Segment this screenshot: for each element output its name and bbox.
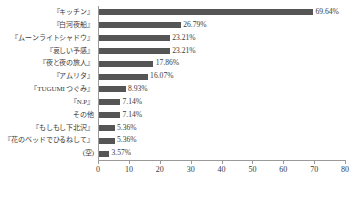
bar-value-label: 8.93% (126, 83, 148, 96)
bar-value-label: 7.14% (120, 109, 142, 122)
bar (98, 125, 115, 131)
bar-row: 23.21% (98, 32, 345, 45)
category-label: 『白河夜船』 (53, 19, 94, 32)
category-label: その他 (73, 109, 94, 122)
bar (98, 9, 313, 15)
category-label: 『TUGUMI つぐみ』 (30, 83, 94, 96)
bar-value-label: 3.57% (109, 147, 131, 160)
bar (98, 35, 170, 41)
value-axis-line (98, 6, 99, 160)
category-label: 『もしもし下北沢』 (32, 122, 94, 135)
x-axis-tick (283, 160, 284, 164)
bar-row: 7.14% (98, 109, 345, 122)
category-label: 『哀しい予感』 (46, 45, 94, 58)
x-axis-tick-label: 40 (218, 165, 226, 174)
bar (98, 86, 126, 92)
x-axis-tick (191, 160, 192, 164)
category-axis-labels: 『キッチン』『白河夜船』『ムーンライトシャドウ』『哀しい予感』『夜と夜の旅人』『… (0, 6, 96, 160)
x-axis-tick-label: 60 (279, 165, 287, 174)
bar-value-label: 26.79% (181, 19, 207, 32)
bar-value-label: 17.86% (153, 57, 179, 70)
category-label: 『夜と夜の旅人』 (39, 57, 94, 70)
x-axis-tick-label: 70 (310, 165, 318, 174)
x-axis-tick-label: 80 (341, 165, 349, 174)
bar-value-label: 5.36% (115, 122, 137, 135)
category-label: 『アムリタ』 (53, 70, 94, 83)
bar-row: 8.93% (98, 83, 345, 96)
bar (98, 48, 170, 54)
bar-row: 7.14% (98, 96, 345, 109)
bar-value-label: 23.21% (170, 45, 196, 58)
bar-value-label: 7.14% (120, 96, 142, 109)
x-axis-tick (314, 160, 315, 164)
bar-row: 5.36% (98, 122, 345, 135)
category-label: (空) (83, 147, 94, 160)
x-axis-tick (129, 160, 130, 164)
bar-row: 17.86% (98, 57, 345, 70)
x-axis-tick-label: 50 (248, 165, 256, 174)
x-axis-tick-label: 30 (187, 165, 195, 174)
bar (98, 112, 120, 118)
bar-value-label: 69.64% (313, 6, 339, 19)
x-axis-tick (98, 160, 99, 164)
x-axis-tick-label: 10 (125, 165, 133, 174)
x-axis-tick (160, 160, 161, 164)
bar (98, 151, 109, 157)
bar-value-label: 16.07% (148, 70, 174, 83)
bar-row: 16.07% (98, 70, 345, 83)
x-axis-tick (252, 160, 253, 164)
category-label: 『花のベッドでひるねして』 (4, 134, 94, 147)
bar-chart: 『キッチン』『白河夜船』『ムーンライトシャドウ』『哀しい予感』『夜と夜の旅人』『… (0, 0, 355, 198)
bar-value-label: 5.36% (115, 134, 137, 147)
category-label: 『ムーンライトシャドウ』 (11, 32, 94, 45)
bar (98, 22, 181, 28)
bar-row: 5.36% (98, 134, 345, 147)
bar-row: 26.79% (98, 19, 345, 32)
x-axis-tick-label: 20 (156, 165, 164, 174)
bar-row: 23.21% (98, 45, 345, 58)
bar (98, 74, 148, 80)
bar-row: 69.64% (98, 6, 345, 19)
x-axis-tick (345, 160, 346, 164)
category-label: 『N.P』 (70, 96, 94, 109)
plot-area: 69.64%26.79%23.21%23.21%17.86%16.07%8.93… (98, 6, 345, 160)
bar (98, 138, 115, 144)
x-axis-tick-label: 0 (96, 165, 100, 174)
bar (98, 61, 153, 67)
bar-value-label: 23.21% (170, 32, 196, 45)
x-axis-tick (222, 160, 223, 164)
bar (98, 99, 120, 105)
category-label: 『キッチン』 (53, 6, 94, 19)
bar-row: 3.57% (98, 147, 345, 160)
